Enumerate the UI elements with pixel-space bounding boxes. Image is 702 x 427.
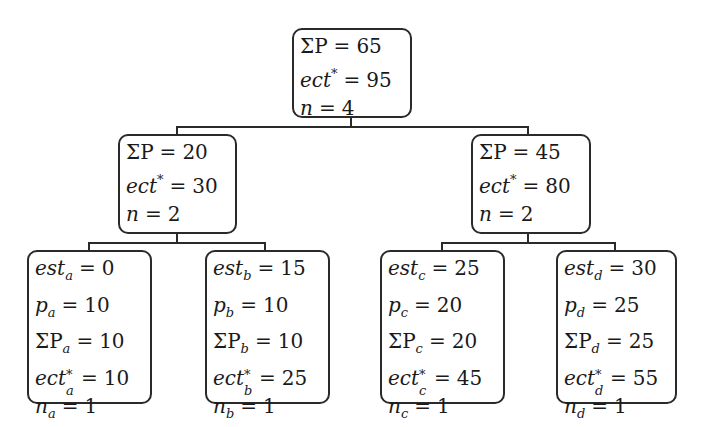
value: 4 — [342, 96, 355, 120]
value: 45 — [457, 366, 482, 390]
label: p — [213, 293, 226, 317]
value: 2 — [168, 202, 181, 226]
equals: = — [602, 256, 631, 280]
equals: = — [585, 293, 614, 317]
sup-sub: *b — [244, 375, 253, 385]
label: n — [479, 202, 492, 226]
node-line-p: pb=10 — [213, 291, 322, 328]
value: 45 — [535, 140, 560, 164]
superscript: * — [331, 66, 338, 81]
equals: = — [73, 256, 102, 280]
node-line-est: estc=25 — [388, 254, 497, 291]
label: ect — [126, 174, 157, 198]
equals: = — [425, 256, 454, 280]
equals: = — [423, 329, 452, 353]
node-line-est: estb=15 — [213, 254, 322, 291]
label: ect — [564, 366, 595, 390]
node-line-n: na=1 — [35, 392, 144, 427]
value: 25 — [282, 366, 307, 390]
node-line-n: n=2 — [479, 200, 583, 228]
subscript: b — [244, 377, 252, 406]
subscript: b — [226, 406, 234, 421]
equals: = — [517, 174, 546, 198]
label: est — [213, 256, 243, 280]
node-line-n: nd=1 — [564, 392, 669, 427]
value: 1 — [263, 394, 276, 418]
node-line-est: estd=30 — [564, 254, 669, 291]
label: ΣP — [479, 140, 507, 164]
equals: = — [408, 293, 437, 317]
tree-diagram: ΣP=65 ect*=95 n=4 ΣP=20 ect*=30 n=2 ΣP=4… — [0, 0, 702, 427]
label: ΣP — [126, 140, 154, 164]
value: 20 — [437, 293, 462, 317]
node-line-sum-p: ΣPc=20 — [388, 327, 497, 364]
label: ect — [479, 174, 510, 198]
node-line-sum-p: ΣP=20 — [126, 138, 229, 166]
label: ΣP — [300, 34, 328, 58]
label: ΣP — [388, 329, 416, 353]
equals: = — [249, 329, 278, 353]
equals: = — [234, 293, 263, 317]
node-line-p: pa=10 — [35, 291, 144, 328]
label: n — [213, 394, 226, 418]
node-line-p: pd=25 — [564, 291, 669, 328]
value: 10 — [99, 329, 124, 353]
edge-level1-bar — [176, 126, 529, 128]
edge-left-bar — [88, 242, 266, 244]
value: 2 — [521, 202, 534, 226]
equals: = — [604, 366, 633, 390]
label: n — [35, 394, 48, 418]
label: n — [388, 394, 401, 418]
value: 10 — [278, 329, 303, 353]
value: 10 — [104, 366, 129, 390]
equals: = — [600, 329, 629, 353]
node-line-ect: ect*d=55 — [564, 364, 669, 393]
subscript: c — [401, 305, 408, 320]
value: 0 — [102, 256, 115, 280]
value: 1 — [614, 394, 627, 418]
subscript: c — [419, 377, 426, 406]
equals: = — [70, 329, 99, 353]
sup-sub: *d — [595, 375, 604, 385]
equals: = — [313, 96, 342, 120]
subscript: a — [66, 377, 74, 406]
value: 1 — [84, 394, 97, 418]
edge-right-bar — [441, 242, 616, 244]
value: 30 — [631, 256, 656, 280]
label: ect — [213, 366, 244, 390]
label: ΣP — [564, 329, 592, 353]
label: p — [564, 293, 577, 317]
label: ect — [388, 366, 419, 390]
node-line-sum-p: ΣPb=10 — [213, 327, 322, 364]
label: ΣP — [35, 329, 63, 353]
node-line-sum-p: ΣP=45 — [479, 138, 583, 166]
equals: = — [56, 293, 85, 317]
equals: = — [492, 202, 521, 226]
equals: = — [251, 256, 280, 280]
value: 25 — [629, 329, 654, 353]
label: ect — [300, 68, 331, 92]
node-line-ect: ect*a=10 — [35, 364, 144, 393]
node-line-ect: ect*=30 — [126, 166, 229, 200]
node-line-sum-p: ΣPa=10 — [35, 327, 144, 364]
node-line-ect: ect*=80 — [479, 166, 583, 200]
value: 20 — [452, 329, 477, 353]
value: 1 — [437, 394, 450, 418]
subscript: a — [48, 406, 56, 421]
subscript: d — [577, 305, 585, 320]
value: 55 — [633, 366, 658, 390]
equals: = — [428, 366, 457, 390]
value: 10 — [263, 293, 288, 317]
label: est — [564, 256, 594, 280]
label: ect — [35, 366, 66, 390]
node-line-n: nb=1 — [213, 392, 322, 427]
label: p — [35, 293, 48, 317]
value: 95 — [366, 68, 391, 92]
value: 25 — [614, 293, 639, 317]
label: est — [35, 256, 65, 280]
node-leaf-a: esta=0 pa=10 ΣPa=10 ect*a=10 na=1 — [27, 250, 152, 404]
node-leaf-d: estd=30 pd=25 ΣPd=25 ect*d=55 nd=1 — [556, 250, 677, 404]
node-root: ΣP=65 ect*=95 n=4 — [292, 28, 412, 118]
sup-sub: *a — [66, 375, 75, 385]
label: n — [564, 394, 577, 418]
